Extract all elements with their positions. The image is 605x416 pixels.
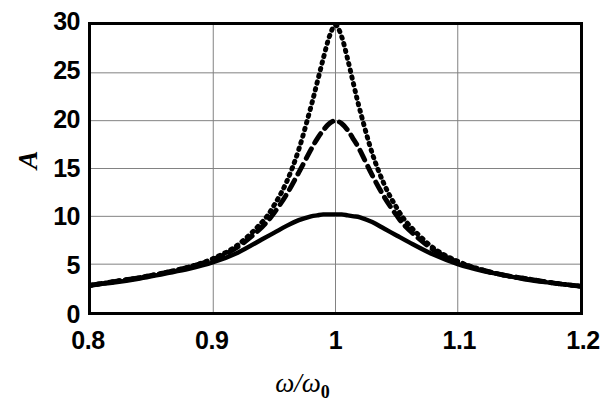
- y-tick-label: 5: [2, 253, 80, 278]
- y-tick-label: 0: [2, 302, 80, 327]
- x-axis-tick-labels: 0.80.911.11.2: [0, 328, 605, 368]
- x-axis-title: ω/ω0: [0, 368, 605, 403]
- y-tick-label: 25: [2, 58, 80, 83]
- y-tick-label: 30: [2, 9, 80, 34]
- y-tick-label: 15: [2, 156, 80, 181]
- y-tick-label: 10: [2, 204, 80, 229]
- x-tick-label: 0.9: [167, 328, 257, 353]
- y-axis-tick-labels: 051015202530: [0, 0, 80, 340]
- y-tick-label: 20: [2, 107, 80, 132]
- x-tick-label: 1.1: [414, 328, 504, 353]
- x-tick-label: 1: [291, 328, 381, 353]
- x-tick-label: 0.8: [43, 328, 133, 353]
- x-axis-title-subscript: 0: [321, 382, 330, 402]
- chart-canvas: [91, 25, 580, 312]
- resonance-amplitude-figure: A 051015202530 0.80.911.11.2 ω/ω0: [0, 0, 605, 416]
- x-axis-title-text: ω/ω0: [275, 368, 330, 398]
- x-tick-label: 1.2: [538, 328, 605, 353]
- plot-area: [88, 22, 583, 315]
